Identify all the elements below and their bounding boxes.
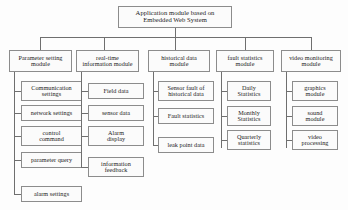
node-1-3-line-2: command (23, 136, 80, 143)
stub-1-5 (14, 194, 21, 195)
node-information-feedback: information feedback (88, 157, 144, 177)
module-3-line-2: module (150, 61, 208, 68)
node-network-settings: network settings (21, 105, 82, 121)
node-daily-statistics: Daily Statistics (227, 81, 271, 101)
drop-col-1 (40, 37, 41, 50)
spine-col-5 (286, 72, 287, 148)
node-leak-point-data: leak point data (158, 137, 214, 153)
spine-col-3 (153, 72, 154, 145)
module-fault-statistics-module: fault statistics module (216, 50, 274, 72)
node-control-command: control command (21, 126, 82, 146)
node-communication-settings: Communication settings (21, 81, 82, 101)
root-stem (175, 28, 176, 37)
node-alarm-display: Alarm display (88, 126, 144, 146)
node-3-1-line-2: historical data (160, 91, 212, 98)
module-5-line-2: module (283, 61, 339, 68)
node-1-1-line-2: settings (23, 91, 80, 98)
spine-col-2 (81, 72, 82, 167)
node-monthly-statistics: Monthly Statistics (227, 106, 271, 126)
module-4-line-2: module (218, 61, 272, 68)
stub-2-3 (81, 136, 88, 137)
node-5-1-line-2: module (294, 91, 336, 98)
hierarchy-diagram: Application module based on Embedded Web… (0, 0, 348, 210)
node-1-5-label: alarm settings (23, 191, 80, 198)
node-video-processing: video processing (292, 130, 338, 150)
node-4-2-line-2: Statistics (229, 116, 269, 123)
node-parameter-query: parameter query (21, 152, 82, 168)
node-1-2-label: network settings (23, 110, 80, 117)
drop-col-2 (104, 37, 105, 50)
drop-col-3 (175, 37, 176, 50)
node-sound-module: sound module (292, 106, 338, 126)
node-sensor-data: sensor data (88, 105, 144, 121)
node-field-data: Field data (88, 83, 144, 99)
node-2-1-label: Field data (90, 88, 142, 95)
node-3-3-label: leak point data (160, 142, 212, 149)
node-5-2-line-2: module (294, 116, 336, 123)
module-video-monitoring-module: video monitoring module (281, 50, 341, 72)
node-1-4-label: parameter query (23, 157, 80, 164)
node-graphics-module: graphics module (292, 81, 338, 101)
module-historical-data-module: historical data module (148, 50, 210, 72)
spine-col-4 (221, 72, 222, 148)
node-2-4-line-2: feedback (90, 167, 142, 174)
node-3-2-label: Fault statistics (160, 113, 212, 120)
stub-1-2 (14, 113, 21, 114)
node-5-3-line-2: processing (294, 140, 336, 147)
root-node: Application module based on Embedded Web… (118, 6, 232, 28)
module-2-line-2: information module (78, 61, 137, 68)
node-alarm-settings: alarm settings (21, 186, 82, 202)
stub-1-1 (14, 91, 21, 92)
node-quarterly-statistics: Quarterly statistics (227, 130, 271, 150)
stub-2-2 (81, 113, 88, 114)
drop-col-4 (245, 37, 246, 50)
root-line-2: Embedded Web System (120, 17, 230, 24)
module-real-time-information-module: real-time information module (76, 50, 139, 72)
module-parameter-setting-module: Parameter setting module (9, 50, 72, 72)
module-1-line-2: module (11, 61, 70, 68)
node-sensor-fault-of-historical-data: Sensor fault of historical data (158, 81, 214, 101)
stub-2-4 (81, 167, 88, 168)
stub-1-3 (14, 136, 21, 137)
drop-col-5 (311, 37, 312, 50)
node-4-3-line-2: statistics (229, 140, 269, 147)
node-2-2-label: sensor data (90, 110, 142, 117)
node-fault-statistics-item: Fault statistics (158, 108, 214, 124)
stub-2-1 (81, 91, 88, 92)
node-4-1-line-2: Statistics (229, 91, 269, 98)
node-2-3-line-2: display (90, 136, 142, 143)
stub-1-4 (14, 160, 21, 161)
